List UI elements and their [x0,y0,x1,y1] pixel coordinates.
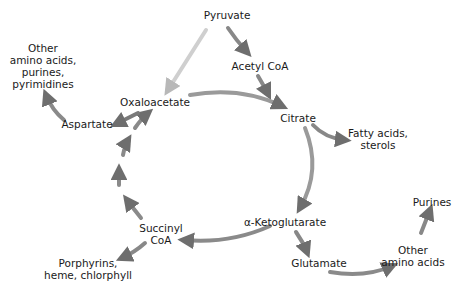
arrow-pyruvate-acetylcoa [228,28,247,52]
node-porphyrins: Porphyrins, heme, chlorphyll [44,257,132,281]
node-succinyl-coa: Succinyl CoA [139,222,183,246]
node-pyruvate: Pyruvate [204,9,251,21]
arrow-otheraa-purines [421,210,430,233]
porphyrins-line1: Porphyrins, [44,257,132,269]
succinyl-line1: Succinyl [139,222,183,234]
porphyrins-line2: heme, chlorphyll [44,269,132,281]
node-aspartate: Aspartate [61,118,112,130]
other-aa-top-line4: pyrimidines [10,78,77,90]
node-oxaloacetate: Oxaloacetate [120,96,190,108]
arrow-succinyl-seg3 [123,140,128,155]
arrow-pyruvate-oxaloacetate [168,30,206,90]
other-aa-top-line3: purines, [10,66,77,78]
other-aa-top-line2: amino acids, [10,54,77,66]
node-citrate: Citrate [280,112,316,124]
arrow-aspartate-otheraa [46,95,64,120]
other-aa-right-line1: Other [381,244,444,256]
node-fatty-acids: Fatty acids, sterols [348,127,408,151]
node-acetyl-coa: Acetyl CoA [232,60,289,72]
fatty-acids-line2: sterols [348,139,408,151]
succinyl-line2: CoA [139,234,183,246]
node-glutamate: Glutamate [291,257,347,269]
arrow-acetylcoa-citrate [258,76,268,94]
node-other-aa-top: Other amino acids, purines, pyrimidines [10,42,77,90]
fatty-acids-line1: Fatty acids, [348,127,408,139]
node-purines: Purines [413,196,452,208]
arrow-akg-succinylcoa [184,226,270,241]
arrow-akg-glutamate [296,232,307,252]
pathway-diagram: Pyruvate Acetyl CoA Citrate Fatty acids,… [0,0,461,291]
other-aa-top-line1: Other [10,42,77,54]
node-alpha-ketoglutarate: α-Ketoglutarate [244,216,326,228]
arrow-citrate-akg [300,128,312,208]
arrow-succinyl-seg1 [127,200,141,218]
node-other-aa-right: Other amino acids [381,244,444,268]
arrow-oxaloacetate-aspartate [116,113,138,124]
other-aa-right-line2: amino acids [381,256,444,268]
arrow-citrate-fattyacids [313,125,345,140]
